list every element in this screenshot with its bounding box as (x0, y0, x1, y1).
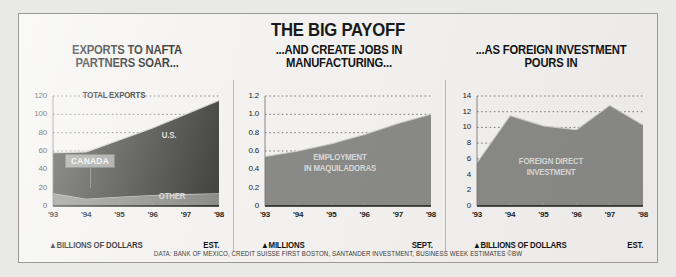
y-tick-label: 80 (21, 128, 47, 137)
x-axis-note-exports: EST. (203, 240, 219, 250)
x-tick-label: '98 (207, 210, 231, 219)
x-tick-label: '94 (74, 210, 98, 219)
y-tick-label: 100 (21, 109, 47, 118)
y-tick-label: 12 (445, 107, 471, 116)
x-tick-label: '93 (465, 210, 489, 219)
y-tick-label: 40 (21, 164, 47, 173)
x-tick-label: '97 (598, 210, 622, 219)
y-tick-label: 60 (21, 146, 47, 155)
chart-panel-employment: ...AND CREATE JOBS IN MANUFACTURING... 0… (233, 44, 445, 262)
annotation-investment: INVESTMENT (507, 167, 595, 177)
x-tick-label: '94 (498, 210, 522, 219)
annotation-employment: EMPLOYMENT (299, 152, 382, 162)
series-area-1 (53, 101, 219, 199)
plot-area-exports: 020406080100120 '93'94'95'96'97'98 TOTAL… (21, 78, 233, 228)
plot-area-investment: 02468101214 '93'94'95'96'97'98 FOREIGN D… (445, 78, 657, 228)
chart-panel-exports: EXPORTS TO NAFTA PARTNERS SOAR... 020406… (21, 44, 233, 262)
y-tick-label: 0.6 (233, 146, 259, 155)
y-tick-label: 0 (445, 201, 471, 210)
chart-title-line: ...AS FOREIGN INVESTMENT (476, 43, 627, 57)
x-tick-label: '94 (286, 210, 310, 219)
callout-pointer (90, 166, 91, 188)
y-tick-label: 10 (445, 122, 471, 131)
y-tick-label: 0.8 (233, 128, 259, 137)
source-note: DATA: BANK OF MEXICO, CREDIT SUISSE FIRS… (35, 250, 641, 257)
x-tick-label: '96 (353, 210, 377, 219)
plot-area-employment: 00.20.40.60.81.01.2 '93'94'95'96'97'98 E… (233, 78, 445, 228)
annotation-maquiladoras: IN MAQUILADORAS (293, 163, 387, 173)
chart-title-line: EXPORTS TO NAFTA (72, 43, 182, 57)
annotation-total-exports: TOTAL EXPORTS (63, 90, 164, 100)
y-tick-label: 1.2 (233, 91, 259, 100)
y-tick-label: 14 (445, 91, 471, 100)
x-axis-label-employment: ▲MILLIONS (261, 240, 304, 250)
y-tick-label: 0.2 (233, 183, 259, 192)
x-axis-label-exports: ▲BILLIONS OF DOLLARS (49, 240, 143, 250)
x-tick-label: '98 (419, 210, 443, 219)
chart-title-line: POURS IN (525, 56, 578, 70)
chart-title-line: ...AND CREATE JOBS IN (276, 43, 403, 57)
x-tick-label: '96 (141, 210, 165, 219)
x-tick-label: '97 (386, 210, 410, 219)
exports-area-chart (21, 78, 233, 228)
infographic-figure: THE BIG PAYOFF EXPORTS TO NAFTA PARTNERS… (18, 13, 658, 263)
x-tick-label: '95 (107, 210, 131, 219)
y-tick-label: 1.0 (233, 109, 259, 118)
y-tick-label: 0.4 (233, 164, 259, 173)
x-tick-label: '95 (319, 210, 343, 219)
x-tick-label: '95 (531, 210, 555, 219)
page-title: THE BIG PAYOFF (57, 19, 618, 41)
chart-panel-investment: ...AS FOREIGN INVESTMENT POURS IN 024681… (445, 44, 657, 262)
y-tick-label: 0 (233, 201, 259, 210)
y-tick-label: 120 (21, 91, 47, 100)
annotation-canada-callout: CANADA (65, 154, 115, 168)
chart-title-employment: ...AND CREATE JOBS IN MANUFACTURING... (247, 44, 431, 70)
x-tick-label: '93 (253, 210, 277, 219)
chart-title-line: MANUFACTURING... (286, 56, 392, 70)
annotation-us: U.S. (151, 130, 188, 140)
y-tick-label: 4 (445, 170, 471, 179)
x-axis-note-employment: SEPT. (412, 240, 433, 250)
chart-title-exports: EXPORTS TO NAFTA PARTNERS SOAR... (35, 44, 219, 70)
chart-title-investment: ...AS FOREIGN INVESTMENT POURS IN (459, 44, 643, 70)
chart-title-line: PARTNERS SOAR... (75, 56, 178, 70)
charts-container: EXPORTS TO NAFTA PARTNERS SOAR... 020406… (19, 44, 659, 262)
x-tick-label: '93 (41, 210, 65, 219)
y-tick-label: 0 (21, 201, 47, 210)
y-tick-label: 20 (21, 183, 47, 192)
y-tick-label: 8 (445, 138, 471, 147)
annotation-other: OTHER (149, 191, 195, 201)
x-axis-note-investment: EST. (627, 240, 643, 250)
x-tick-label: '96 (565, 210, 589, 219)
annotation-foreign-direct: FOREIGN DIRECT (503, 156, 599, 166)
investment-area-chart (445, 78, 657, 228)
y-tick-label: 6 (445, 154, 471, 163)
y-tick-label: 2 (445, 185, 471, 194)
x-tick-label: '98 (631, 210, 655, 219)
x-axis-label-investment: ▲BILLIONS OF DOLLARS (473, 240, 567, 250)
x-tick-label: '97 (174, 210, 198, 219)
